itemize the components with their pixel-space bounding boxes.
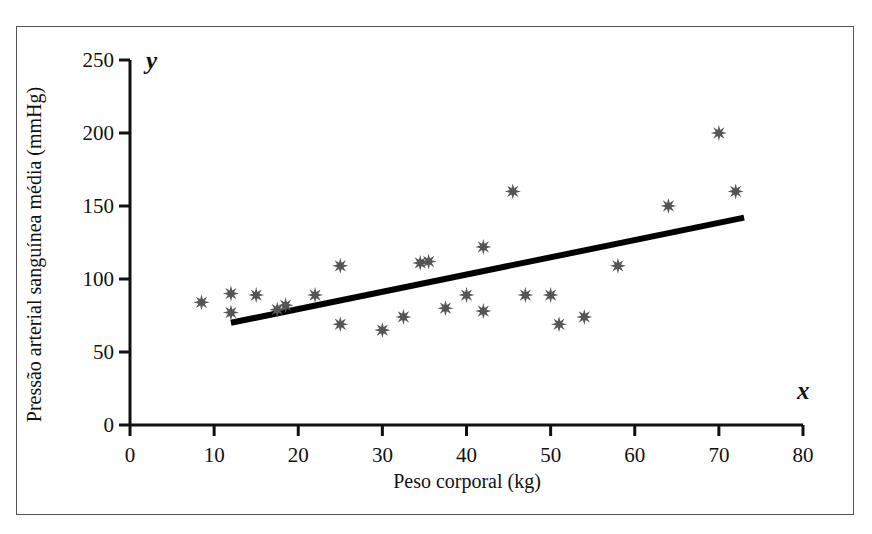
data-point	[711, 125, 727, 141]
x-tick-label: 10	[204, 443, 225, 468]
data-point	[728, 183, 744, 199]
x-tick-label: 70	[708, 443, 729, 468]
y-tick-label: 150	[52, 194, 114, 219]
data-point	[543, 287, 559, 303]
y-tick-label: 100	[52, 267, 114, 292]
x-tick-label: 20	[288, 443, 309, 468]
y-tick-label: 0	[52, 413, 114, 438]
data-point	[278, 297, 294, 313]
data-point	[517, 287, 533, 303]
y-tick-label: 200	[52, 121, 114, 146]
y-tick-label: 50	[52, 340, 114, 365]
data-point	[551, 316, 567, 332]
data-point	[332, 316, 348, 332]
y-axis-title: Pressão arterial sanguínea média (mmHg)	[23, 75, 46, 435]
data-point	[610, 258, 626, 274]
data-point	[437, 300, 453, 316]
x-axis-title: Peso corporal (kg)	[130, 470, 804, 493]
data-point	[374, 322, 390, 338]
y-tick-label: 250	[52, 48, 114, 73]
data-point	[307, 287, 323, 303]
axes-group	[119, 60, 803, 436]
x-tick-label: 60	[624, 443, 645, 468]
data-point	[421, 253, 437, 269]
data-point	[475, 239, 491, 255]
y-axis-letter: y	[146, 47, 157, 75]
data-point	[395, 309, 411, 325]
x-axis-letter: x	[797, 377, 810, 405]
data-point	[248, 287, 264, 303]
data-point	[332, 258, 348, 274]
data-point	[223, 286, 239, 302]
x-tick-label: 80	[793, 443, 814, 468]
data-point	[475, 303, 491, 319]
x-tick-label: 0	[125, 443, 136, 468]
data-point	[223, 305, 239, 321]
data-point	[194, 294, 210, 310]
x-tick-label: 50	[540, 443, 561, 468]
scatter-plot: 050100150200250 01020304050607080 Pressã…	[0, 0, 872, 534]
data-point	[505, 183, 521, 199]
figure-container: 050100150200250 01020304050607080 Pressã…	[0, 0, 872, 534]
x-tick-label: 40	[456, 443, 477, 468]
data-point	[576, 309, 592, 325]
x-tick-label: 30	[372, 443, 393, 468]
data-point	[459, 287, 475, 303]
data-points	[194, 125, 744, 338]
data-point	[660, 198, 676, 214]
caption-fragment	[16, 520, 854, 532]
